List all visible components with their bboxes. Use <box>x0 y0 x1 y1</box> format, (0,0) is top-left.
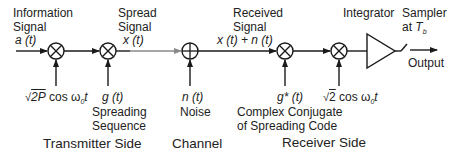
x-plus-n-symbol: x (t) + n (t) <box>217 34 273 47</box>
sampler-at-tb-label: at Tb <box>402 21 427 38</box>
integrator-label: Integrator <box>343 7 394 20</box>
spreading-label: Spreading <box>92 106 147 119</box>
x-t-symbol: x (t) <box>123 34 144 47</box>
multiplier-1-icon <box>48 43 64 59</box>
spreading-code-label: of Spreading Code <box>237 120 337 133</box>
a-t-symbol: a (t) <box>15 34 36 47</box>
adder-icon <box>182 43 198 59</box>
receiver-side-label: Receiver Side <box>282 135 366 150</box>
sampler-label: Sampler <box>402 7 447 20</box>
multiplier-4-icon <box>331 43 347 59</box>
g-t-symbol: g (t) <box>102 91 123 104</box>
sampler-switch-icon <box>401 44 407 51</box>
channel-label: Channel <box>172 136 222 151</box>
transmitter-side-label: Transmitter Side <box>43 136 142 151</box>
noise-label: Noise <box>180 106 211 119</box>
sequence-label: Sequence <box>92 120 146 133</box>
received-label: Received <box>233 7 283 20</box>
n-t-symbol: n (t) <box>182 91 203 104</box>
carrier-tx-label: √2P cos ω0t <box>25 91 88 108</box>
carrier-rx-label: √2 cos ω0t <box>323 91 378 108</box>
information-label: Information <box>13 7 73 20</box>
multiplier-3-icon <box>277 43 293 59</box>
integrator-icon <box>367 34 395 68</box>
output-label: Output <box>408 57 444 70</box>
spread-label: Spread <box>118 7 157 20</box>
g-conj-symbol: g* (t) <box>277 91 303 104</box>
multiplier-2-icon <box>100 43 116 59</box>
